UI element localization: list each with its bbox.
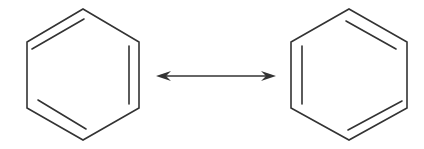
resonance-arrow bbox=[156, 71, 276, 81]
benzene-left bbox=[27, 9, 139, 140]
resonance-diagram bbox=[0, 0, 424, 149]
benzene-right bbox=[291, 9, 407, 140]
